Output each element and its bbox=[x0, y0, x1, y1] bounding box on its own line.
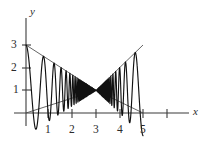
y-tick-label-2: 2 bbox=[11, 62, 17, 74]
x-tick-label-2: 2 bbox=[69, 124, 75, 136]
oscillating-curve-left bbox=[26, 45, 96, 129]
axes-group bbox=[14, 18, 189, 126]
x-tick-label-5: 5 bbox=[140, 124, 146, 136]
x-axis-label: x bbox=[193, 106, 198, 117]
x-tick-label-1: 1 bbox=[45, 124, 51, 136]
y-axis-label: y bbox=[30, 6, 35, 17]
math-figure: 3 2 1 1 2 3 4 5 x y bbox=[0, 0, 212, 146]
x-tick-label-4: 4 bbox=[117, 124, 123, 136]
y-tick-label-3: 3 bbox=[11, 39, 17, 51]
y-tick-label-1: 1 bbox=[13, 84, 19, 96]
plot-canvas bbox=[0, 0, 212, 146]
oscillating-curve-group bbox=[26, 45, 143, 136]
x-tick-label-3: 3 bbox=[93, 124, 99, 136]
envelope-group bbox=[26, 45, 143, 113]
